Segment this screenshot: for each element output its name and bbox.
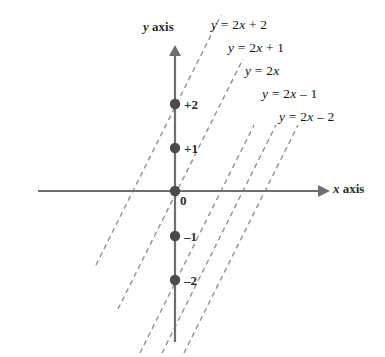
- equation-label-y-2x-plus-2: y = 2x + 2: [211, 17, 267, 33]
- y-axis-label: y axis: [143, 19, 174, 35]
- eq-rest: = 2: [234, 40, 256, 55]
- equation-label-y-2x-minus-2: y = 2x – 2: [279, 109, 334, 125]
- eq-tail: – 1: [296, 86, 317, 101]
- graph-figure: y axis x axis +2 +1 0 –1 –2 y = 2x + 2 y…: [0, 0, 385, 357]
- tick-label-minus-2: –2: [184, 273, 197, 289]
- eq-tail: – 2: [313, 109, 334, 124]
- tick-label-plus-2: +2: [184, 97, 198, 113]
- y-axis-arrowhead: [169, 45, 181, 56]
- x-axis-label-rest: axis: [340, 181, 365, 196]
- dashed-line: [140, 125, 254, 353]
- eq-tail: + 2: [245, 17, 267, 32]
- intercept-dot-plus-1: [170, 143, 180, 153]
- y-axis-label-rest: axis: [149, 19, 174, 34]
- intercept-dot-plus-2: [170, 99, 180, 109]
- intercept-dot-origin: [170, 186, 180, 196]
- eq-rest: = 2: [251, 63, 273, 78]
- equation-label-y-2x-minus-1: y = 2x – 1: [262, 86, 317, 102]
- intercept-dot-minus-1: [170, 231, 180, 241]
- tick-label-plus-1: +1: [184, 141, 198, 157]
- coordinate-plot: [0, 0, 385, 357]
- line-y-2x: [140, 125, 254, 353]
- x-axis-arrowhead: [318, 185, 330, 197]
- eq-var: x: [273, 63, 279, 78]
- intercept-dot-minus-2: [170, 275, 180, 285]
- line-y-2x-minus-2: [184, 125, 298, 353]
- tick-label-minus-1: –1: [184, 229, 197, 245]
- equation-label-y-2x: y = 2x: [245, 63, 279, 79]
- eq-rest: = 2: [268, 86, 290, 101]
- eq-rest: = 2: [285, 109, 307, 124]
- eq-tail: + 1: [262, 40, 284, 55]
- equation-label-y-2x-plus-1: y = 2x + 1: [228, 40, 284, 56]
- eq-rest: = 2: [217, 17, 239, 32]
- tick-label-origin: 0: [180, 193, 187, 209]
- x-axis-label: x axis: [333, 181, 364, 197]
- dashed-line: [184, 125, 298, 353]
